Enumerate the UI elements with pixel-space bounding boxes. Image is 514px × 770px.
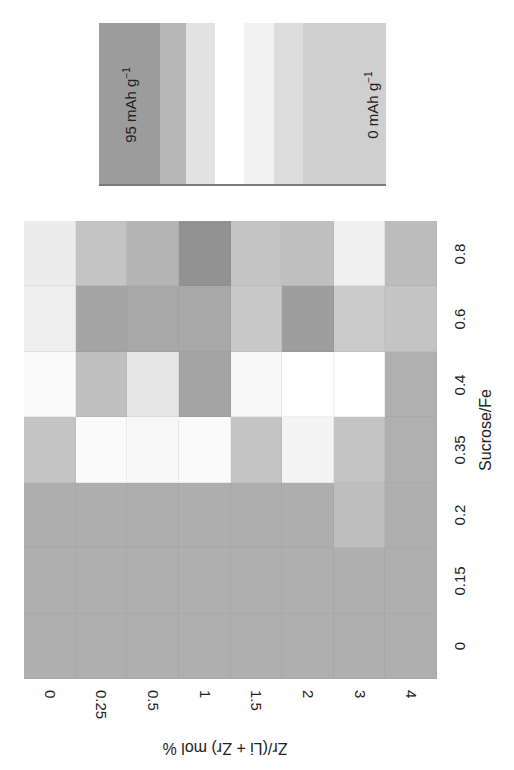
heatmap-cell: [24, 548, 76, 613]
heatmap-cell: [127, 221, 179, 286]
zr-tick-label: 0: [41, 690, 59, 740]
heatmap-cell: [76, 221, 128, 286]
colorbar-band: [215, 23, 244, 184]
heatmap-cell: [282, 221, 334, 286]
heatmap-cell: [231, 286, 283, 351]
heatmap-cell: [334, 417, 386, 482]
heatmap-cell: [282, 614, 334, 679]
sucrose-tick-label: 0.8: [451, 229, 469, 279]
heatmap-cell: [179, 286, 231, 351]
heatmap-cell: [127, 483, 179, 548]
heatmap-cell: [76, 417, 128, 482]
colorbar-max-label: 95 mAh g−1: [117, 46, 137, 164]
heatmap-cell: [127, 614, 179, 679]
heatmap-cell: [76, 352, 128, 417]
heatmap-cell: [231, 352, 283, 417]
heatmap-cell: [179, 221, 231, 286]
heatmap-cell: [231, 221, 283, 286]
heatmap-cell: [282, 352, 334, 417]
colorbar-max-sup: −1: [121, 67, 132, 78]
colorbar-min-label: 0 mAh g−1: [359, 51, 379, 159]
heatmap-cell: [24, 286, 76, 351]
zr-tick-label: 3: [351, 690, 369, 740]
sucrose-tick-label: 0.15: [451, 556, 469, 606]
heatmap-grid: [24, 221, 437, 679]
heatmap-cell: [385, 614, 437, 679]
zr-tick-label: 1.5: [247, 690, 265, 740]
zr-axis-title: Zr/(Li + Zr) mol %: [125, 738, 325, 758]
heatmap-cell: [127, 352, 179, 417]
zr-tick-label: 1: [196, 690, 214, 740]
heatmap-cell: [24, 352, 76, 417]
heatmap-cell: [334, 483, 386, 548]
zr-tick-label: 0.25: [92, 690, 110, 740]
heatmap-cell: [179, 483, 231, 548]
sucrose-tick-label: 0.2: [451, 490, 469, 540]
heatmap-cell: [385, 417, 437, 482]
heatmap-cell: [385, 286, 437, 351]
zr-tick-label: 4: [402, 690, 420, 740]
zr-tick-label: 2: [299, 690, 317, 740]
heatmap-cell: [385, 548, 437, 613]
sucrose-axis-title: Sucrose/Fe: [476, 370, 496, 490]
heatmap-cell: [24, 483, 76, 548]
heatmap-cell: [24, 614, 76, 679]
heatmap-cell: [334, 286, 386, 351]
heatmap-cell: [385, 483, 437, 548]
heatmap-cell: [334, 352, 386, 417]
heatmap-cell: [76, 614, 128, 679]
heatmap-cell: [127, 417, 179, 482]
heatmap-cell: [282, 548, 334, 613]
colorbar-band: [274, 23, 303, 184]
heatmap-cell: [24, 221, 76, 286]
heatmap-cell: [179, 548, 231, 613]
colorbar-max-text: 95 mAh g: [122, 79, 139, 143]
heatmap-cell: [179, 352, 231, 417]
colorbar-min-text: 0 mAh g: [364, 83, 381, 139]
heatmap-cell: [334, 221, 386, 286]
heatmap-cell: [385, 221, 437, 286]
heatmap-cell: [179, 614, 231, 679]
colorbar-band: [186, 23, 215, 184]
heatmap-cell: [76, 483, 128, 548]
heatmap-cell: [282, 286, 334, 351]
heatmap-cell: [231, 483, 283, 548]
colorbar-band: [160, 23, 186, 184]
heatmap-cell: [231, 548, 283, 613]
heatmap-cell: [127, 548, 179, 613]
heatmap-cell: [24, 417, 76, 482]
heatmap-cell: [76, 286, 128, 351]
sucrose-tick-label: 0.6: [451, 294, 469, 344]
sucrose-tick-label: 0: [451, 621, 469, 671]
heatmap-cell: [334, 614, 386, 679]
heatmap-cell: [231, 417, 283, 482]
heatmap-cell: [334, 548, 386, 613]
sucrose-tick-label: 0.4: [451, 360, 469, 410]
colorbar-legend: [99, 23, 386, 186]
zr-tick-label: 0.5: [144, 690, 162, 740]
heatmap-cell: [76, 548, 128, 613]
heatmap-cell: [231, 614, 283, 679]
heatmap-cell: [127, 286, 179, 351]
colorbar-min-sup: −1: [363, 71, 374, 82]
heatmap-cell: [385, 352, 437, 417]
heatmap-cell: [282, 417, 334, 482]
heatmap-cell: [282, 483, 334, 548]
sucrose-tick-label: 0.35: [451, 425, 469, 475]
colorbar-band: [244, 23, 274, 184]
heatmap-cell: [179, 417, 231, 482]
